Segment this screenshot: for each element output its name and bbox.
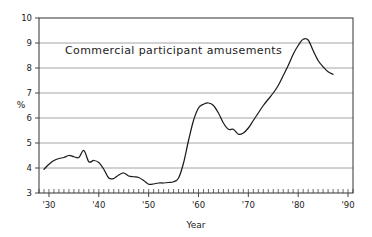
y-tick-label: 10	[21, 13, 32, 23]
y-tick-label: 6	[27, 113, 32, 123]
x-axis-minor-ticks	[39, 189, 353, 193]
gridlines	[39, 43, 353, 168]
x-tick-label: '70	[242, 200, 255, 210]
x-axis-title: Year	[185, 220, 205, 230]
x-tick-label: '30	[42, 200, 55, 210]
x-tick-label: '80	[292, 200, 305, 210]
y-tick-label: 8	[27, 63, 32, 73]
x-tick-label: '60	[192, 200, 205, 210]
y-axis-title: %	[17, 100, 26, 110]
x-tick-label: '90	[341, 200, 354, 210]
x-tick-label: '50	[142, 200, 155, 210]
chart-figure: 345678910 '30'40'50'60'70'80'90 Commerci…	[0, 0, 372, 237]
y-tick-label: 4	[27, 163, 32, 173]
x-axis-tick-labels: '30'40'50'60'70'80'90	[42, 200, 354, 210]
x-axis-ticks	[49, 193, 348, 197]
data-series-line	[44, 39, 333, 185]
y-tick-label: 9	[27, 38, 32, 48]
y-axis-ticks	[35, 18, 39, 193]
y-tick-label: 7	[27, 88, 32, 98]
y-tick-label: 3	[27, 188, 32, 198]
y-tick-label: 5	[27, 138, 32, 148]
x-tick-label: '40	[92, 200, 105, 210]
series-annotation-label: Commercial participant amusements	[65, 44, 282, 57]
line-chart-plot: 345678910 '30'40'50'60'70'80'90 Commerci…	[0, 0, 372, 237]
